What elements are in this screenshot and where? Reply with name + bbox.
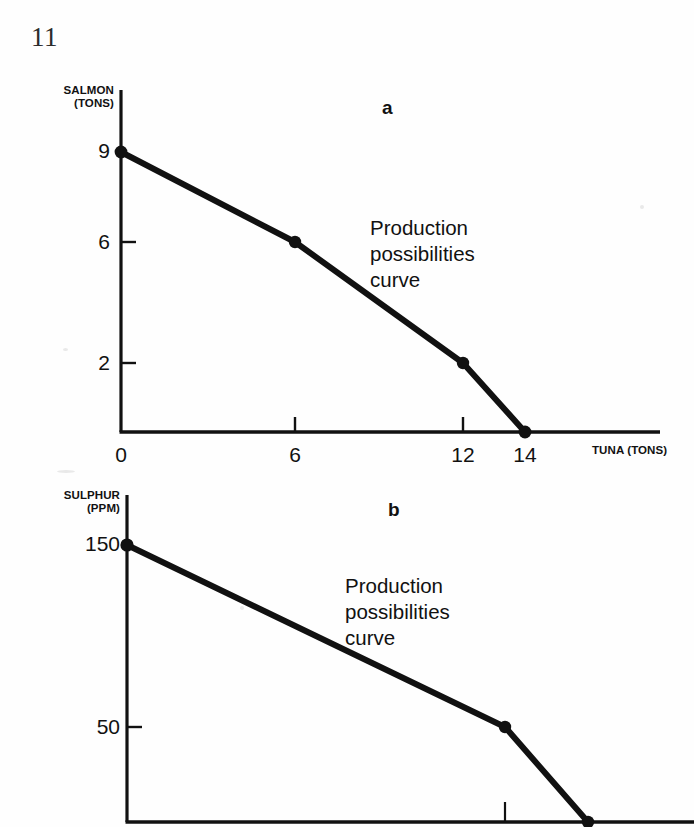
y-axis-title-b-line2: (PPM): [0, 502, 120, 515]
y-tick-label-a-2: 2: [62, 352, 110, 373]
figure-a-plot: [0, 70, 694, 470]
data-point-a-1: [289, 236, 301, 248]
x-tick-label-a-14: 14: [505, 444, 545, 465]
x-tick-label-a-6: 6: [275, 444, 315, 465]
data-point-b-1: [499, 721, 511, 733]
curve-caption-a: Production possibilities curve: [370, 215, 475, 294]
y-axis-title-b-line1: SULPHUR: [0, 489, 120, 502]
y-axis-title-a: SALMON (TONS): [0, 84, 114, 110]
x-axis-title-a: TUNA (TONS): [592, 444, 667, 457]
scanned-textbook-page: 11 SALMON (TONS) TUNA: [0, 0, 694, 827]
panel-letter-a: a: [382, 98, 393, 117]
data-point-a-2: [457, 357, 469, 369]
y-tick-label-a-9: 9: [62, 140, 110, 161]
figure-b: SULPHUR (PPM) 150 50 b Production possib…: [0, 480, 694, 827]
data-point-b-0: [120, 538, 133, 551]
y-tick-label-b-150: 150: [40, 533, 120, 554]
data-point-a-0: [115, 146, 128, 159]
x-tick-label-a-0: 0: [101, 444, 141, 465]
y-axis-title-a-line2: (TONS): [0, 97, 114, 110]
page-number: 11: [31, 24, 58, 51]
figure-a: SALMON (TONS) TUNA (TONS) 9 6 2 0 6 12 1…: [0, 70, 694, 470]
y-axis-title-b: SULPHUR (PPM): [0, 489, 120, 515]
y-tick-label-a-6: 6: [62, 231, 110, 252]
y-tick-label-b-50: 50: [40, 716, 120, 737]
y-axis-title-a-line1: SALMON: [0, 84, 114, 97]
data-point-a-3: [519, 426, 532, 439]
panel-letter-b: b: [388, 500, 400, 519]
x-tick-label-a-12: 12: [443, 444, 483, 465]
scan-speckle: [57, 470, 75, 473]
curve-caption-b: Production possibilities curve: [345, 573, 450, 652]
